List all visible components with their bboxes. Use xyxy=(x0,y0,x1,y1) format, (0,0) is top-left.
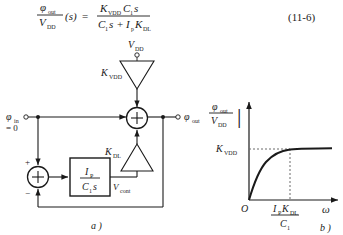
lhs-denominator-sub: DD xyxy=(47,24,56,30)
control-voltage-sub: cont xyxy=(120,188,131,194)
xtick-den-c-sub: 1 xyxy=(287,225,290,231)
gain-block-kvdd xyxy=(120,61,154,89)
gain-kvdd-label-base: K xyxy=(100,67,109,78)
supply-terminal xyxy=(135,53,139,57)
ylabel-denominator-sub: DD xyxy=(218,122,227,128)
magnitude-plot-b: φ out V DD | K VDD O I P K DL C 1 xyxy=(209,101,338,234)
rhs-num-k-sub: VDD xyxy=(108,10,122,16)
xtick-num-k: K xyxy=(281,203,290,214)
ylabel-numerator: φ xyxy=(212,101,218,112)
output-terminal xyxy=(176,115,180,119)
rhs-num-s: s xyxy=(134,2,138,14)
input-terminal xyxy=(24,115,28,119)
ytick-label-sub: VDD xyxy=(224,150,238,156)
equation-lhs: φ out V DD (s) = xyxy=(37,1,88,30)
output-label-sub: out xyxy=(192,118,200,124)
plot-ylabel: φ out V DD | xyxy=(209,101,241,128)
rhs-num-c-sub: 1 xyxy=(130,10,133,16)
ylabel-abs-bar: | xyxy=(237,103,241,128)
gain-kdl-label-sub: DL xyxy=(113,153,121,159)
gain-kvdd-label-sub: VDD xyxy=(109,74,123,80)
gain-kdl-label-base: K xyxy=(104,146,113,157)
equation-rhs: K VDD C 1 s C 1 s + I p K DL xyxy=(97,2,151,32)
xtick-den-c: C xyxy=(280,218,287,229)
sum-sign-plus: + xyxy=(25,157,30,167)
lhs-argument: (s) xyxy=(65,10,77,23)
xtick-label: I P K DL C 1 xyxy=(271,203,299,231)
gain-block-kdl xyxy=(121,144,153,171)
lhs-numerator: φ xyxy=(40,1,46,13)
filter-den-s: s xyxy=(93,181,97,192)
origin-label: O xyxy=(241,203,248,214)
input-label-base: φ xyxy=(6,111,12,122)
supply-label-sub: DD xyxy=(135,46,144,52)
filter-den-sub: 1 xyxy=(89,188,92,194)
equation-number: (11-6) xyxy=(288,11,315,24)
rhs-den-s: s xyxy=(109,18,113,30)
control-voltage-base: V xyxy=(113,182,120,192)
rhs-den-i-sub: p xyxy=(131,26,134,32)
input-value: = 0 xyxy=(6,123,18,133)
equals-sign: = xyxy=(82,10,88,22)
ytick-label-base: K xyxy=(215,143,224,154)
sum-sign-minus: − xyxy=(25,188,30,198)
plot-xlabel: ω xyxy=(322,203,330,215)
caption-a: a ) xyxy=(91,220,103,232)
figure-container: φ out V DD (s) = K VDD C 1 s C 1 s + I p… xyxy=(0,0,343,235)
rhs-den-k: K xyxy=(134,18,143,30)
rhs-num-k: K xyxy=(99,2,108,14)
block-diagram-a: V DD K VDD φ in = 0 φ out xyxy=(6,39,200,232)
lhs-denominator: V xyxy=(39,16,47,28)
xtick-num-i: I xyxy=(272,203,277,214)
equation-11-6: φ out V DD (s) = K VDD C 1 s C 1 s + I p… xyxy=(37,1,315,32)
lhs-numerator-sub: out xyxy=(48,9,56,15)
caption-b: b ) xyxy=(320,222,332,234)
rhs-den-k-sub: DL xyxy=(143,26,151,32)
rhs-den-plus: + xyxy=(117,18,123,30)
rhs-den-c-sub: 1 xyxy=(105,26,108,32)
output-label-base: φ xyxy=(184,111,190,122)
filter-den-base: C xyxy=(82,181,89,192)
filter-num-base: I xyxy=(84,166,89,177)
